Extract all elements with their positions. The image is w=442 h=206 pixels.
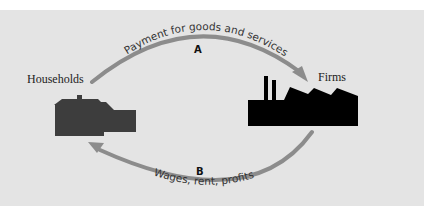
circular-flow-diagram: Payment for goods and services Wages, re…: [0, 0, 442, 206]
houses-icon: [54, 95, 136, 136]
firms-label: Firms: [318, 70, 346, 85]
flow-b-letter: B: [196, 166, 204, 177]
flow-b-label: Wages, rent, profits: [153, 166, 255, 187]
flow-a-letter: A: [194, 44, 202, 55]
households-label: Households: [27, 72, 84, 87]
